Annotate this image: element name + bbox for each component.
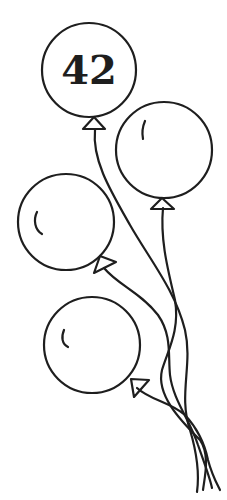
string-balloon-1 [95, 130, 198, 492]
balloons-drawing: 42 [0, 0, 227, 500]
balloon-1-label: 42 [61, 46, 117, 93]
balloon-3-highlight [35, 212, 42, 234]
balloon-4-highlight [62, 330, 68, 347]
balloon-1-knot [83, 117, 105, 129]
balloon-2 [116, 102, 212, 198]
balloon-4 [44, 297, 140, 393]
balloon-2-highlight [142, 121, 145, 139]
balloons-illustration: 42 [0, 0, 227, 500]
